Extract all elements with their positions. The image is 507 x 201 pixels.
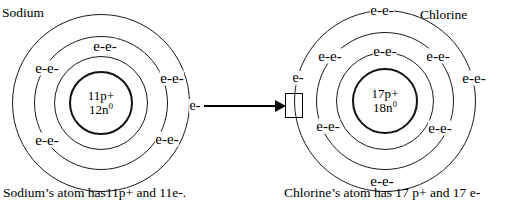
chlorine-electron-inner-bottom-left: e-e- — [316, 119, 340, 134]
sodium-proton-count: 11p+ — [88, 89, 115, 103]
sodium-electron-middle-right: e-e- — [160, 71, 184, 86]
chlorine-electron-middle-left: e-e- — [318, 49, 342, 64]
chlorine-electron-outer-top: e-e- — [370, 3, 394, 18]
sodium-electron-inner-left: e-e- — [35, 61, 59, 76]
sodium-label: Sodium — [2, 6, 44, 20]
chlorine-electron-outer-left: e- — [292, 71, 304, 85]
chlorine-nucleus: 17p+ 18n0 — [352, 68, 418, 134]
sodium-nucleus: 11p+ 12n0 — [69, 71, 133, 135]
chlorine-electron-inner-bottom-right: e-e- — [428, 121, 452, 136]
sodium-neutron-count: 12n0 — [89, 102, 113, 117]
sodium-caption: Sodium’s atom has11p+ and 11e-. — [3, 186, 186, 200]
chlorine-electron-outer-right: e-e- — [462, 71, 486, 86]
sodium-electron-inner-bottom-left: e-e- — [35, 133, 59, 148]
chlorine-caption: Chlorine’s atom has 17 p+ and 17 e- — [284, 186, 480, 200]
chlorine-electron-middle-right: e-e- — [426, 49, 450, 64]
arrow-shaft — [204, 105, 277, 107]
sodium-valence-electron: e- — [189, 99, 201, 113]
sodium-electron-inner-top: e-e- — [93, 39, 117, 54]
sodium-electron-middle-bottom-right: e-e- — [155, 132, 179, 147]
chlorine-label: Chlorine — [420, 8, 467, 22]
chlorine-electron-middle-top: e-e- — [373, 44, 397, 59]
atom-transfer-diagram: 11p+ 12n0 Sodium e-e- e-e- e-e- e-e- e-e… — [0, 0, 507, 201]
chlorine-proton-count: 17p+ — [371, 87, 398, 101]
chlorine-neutron-count: 18n0 — [373, 100, 397, 115]
